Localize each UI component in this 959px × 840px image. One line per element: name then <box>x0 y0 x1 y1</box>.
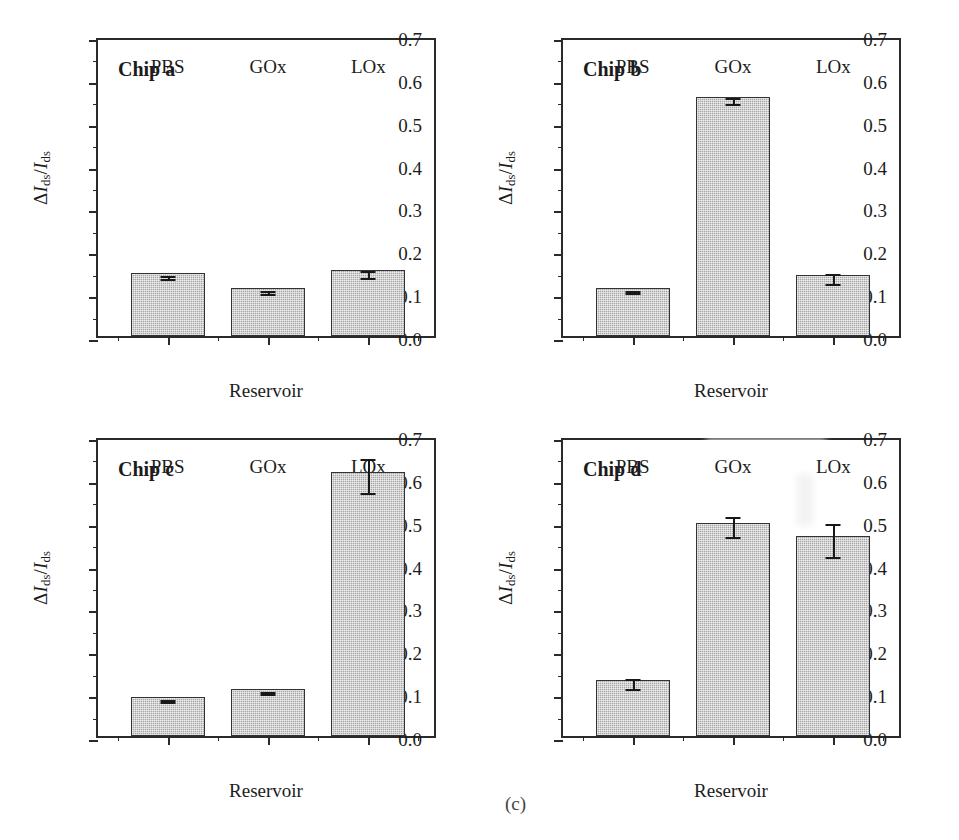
y-tick-minor <box>93 590 98 591</box>
y-tick-minor <box>93 504 98 505</box>
y-tick-minor <box>558 190 563 191</box>
y-tick-minor <box>558 61 563 62</box>
y-tick-major <box>554 526 563 528</box>
y-tick-minor <box>558 633 563 634</box>
y-tick-minor <box>93 719 98 720</box>
y-tick-label: 0.7 <box>398 429 422 451</box>
y-tick-minor <box>558 233 563 234</box>
x-axis-label: Reservoir <box>96 380 436 402</box>
error-bar-cap-top <box>726 517 741 519</box>
y-tick-label: 0.6 <box>863 72 887 94</box>
y-tick-label: 0.2 <box>398 243 422 265</box>
y-tick-major <box>554 254 563 256</box>
y-tick-major <box>554 611 563 613</box>
x-tick-label: GOx <box>715 456 752 478</box>
y-tick-major <box>89 740 98 742</box>
y-axis-label: ΔIds/Ids <box>30 278 52 478</box>
y-axis-label: ΔIds/Ids <box>495 0 517 78</box>
chart-panel-b: ΔIds/IdsReservoir0.00.10.20.30.40.50.60.… <box>483 18 943 418</box>
y-tick-minor <box>558 276 563 277</box>
bar-d-LOx <box>796 536 870 736</box>
x-tick-label: LOx <box>351 56 386 78</box>
x-tick-minor <box>418 736 419 741</box>
panel-title-c: Chip c <box>118 458 174 481</box>
y-tick-major <box>89 526 98 528</box>
error-bar <box>368 459 370 492</box>
y-tick-major <box>89 654 98 656</box>
y-tick-major <box>554 569 563 571</box>
x-tick-major <box>168 736 170 745</box>
y-tick-minor <box>93 276 98 277</box>
y-tick-minor <box>558 319 563 320</box>
x-tick-major <box>833 336 835 345</box>
x-tick-label: GOx <box>715 56 752 78</box>
chart-panel-d: ΔIds/IdsReservoir0.00.10.20.30.40.50.60.… <box>483 418 943 818</box>
error-bar-cap-top <box>361 271 376 273</box>
x-axis-label: Reservoir <box>96 780 436 802</box>
y-tick-minor <box>93 676 98 677</box>
x-tick-minor <box>783 736 784 741</box>
y-tick-major <box>554 483 563 485</box>
error-bar-cap-bottom <box>826 284 841 286</box>
chart-panel-a: ΔIds/IdsReservoir0.00.10.20.30.40.50.60.… <box>18 18 478 418</box>
x-tick-label: LOx <box>816 456 851 478</box>
error-bar-cap-bottom <box>625 293 640 295</box>
y-tick-major <box>89 340 98 342</box>
y-tick-label: 0.5 <box>863 115 887 137</box>
x-tick-minor <box>118 736 119 741</box>
y-tick-minor <box>93 61 98 62</box>
y-tick-label: 0.6 <box>863 472 887 494</box>
y-axis-label-text: ΔIds/Ids <box>495 78 519 278</box>
y-tick-minor <box>558 504 563 505</box>
y-tick-major <box>554 440 563 442</box>
y-tick-major <box>554 211 563 213</box>
y-tick-major <box>89 254 98 256</box>
y-tick-label: 0.4 <box>863 158 887 180</box>
y-tick-major <box>89 40 98 42</box>
y-tick-minor <box>93 319 98 320</box>
y-axis-label-text: ΔIds/Ids <box>495 478 519 678</box>
plot-area-a: 0.00.10.20.30.40.50.60.7PBSGOxLOx <box>96 38 436 338</box>
error-bar-cap-bottom <box>261 294 276 296</box>
y-tick-minor <box>93 233 98 234</box>
error-bar-cap-bottom <box>160 279 175 281</box>
x-tick-major <box>368 736 370 745</box>
error-bar-cap-top <box>361 459 376 461</box>
panel-title-a: Chip a <box>118 58 175 81</box>
error-bar-cap-top <box>826 274 841 276</box>
x-tick-major <box>833 736 835 745</box>
figure-panel-group: ΔIds/IdsReservoir0.00.10.20.30.40.50.60.… <box>0 0 959 840</box>
figure-caption: (c) <box>505 793 526 815</box>
y-tick-label: 0.3 <box>863 200 887 222</box>
panel-title-b: Chip b <box>583 58 641 81</box>
error-bar-cap-bottom <box>726 104 741 106</box>
y-tick-major <box>89 169 98 171</box>
y-tick-major <box>554 169 563 171</box>
y-axis-label-text: ΔIds/Ids <box>30 78 54 278</box>
y-tick-major <box>554 654 563 656</box>
bar-a-PBS <box>131 273 205 336</box>
panel-title-d: Chip d <box>583 458 641 481</box>
error-bar-cap-bottom <box>826 557 841 559</box>
error-bar-cap-top <box>826 524 841 526</box>
error-bar <box>733 517 735 537</box>
y-tick-label: 0.5 <box>398 115 422 137</box>
x-tick-minor <box>318 336 319 341</box>
x-axis-label: Reservoir <box>561 380 901 402</box>
x-tick-minor <box>418 336 419 341</box>
error-bar <box>833 524 835 557</box>
x-tick-minor <box>218 336 219 341</box>
y-axis-label: ΔIds/Ids <box>495 278 517 478</box>
y-tick-major <box>89 569 98 571</box>
y-tick-major <box>554 697 563 699</box>
y-tick-major <box>89 126 98 128</box>
bar-c-LOx <box>331 472 405 736</box>
y-tick-minor <box>558 461 563 462</box>
y-axis-label: ΔIds/Ids <box>30 0 52 78</box>
error-bar-cap-bottom <box>361 278 376 280</box>
bar-a-LOx <box>331 270 405 336</box>
x-tick-minor <box>883 336 884 341</box>
x-tick-minor <box>318 736 319 741</box>
x-tick-label: GOx <box>250 456 287 478</box>
bar-b-GOx <box>696 97 770 336</box>
